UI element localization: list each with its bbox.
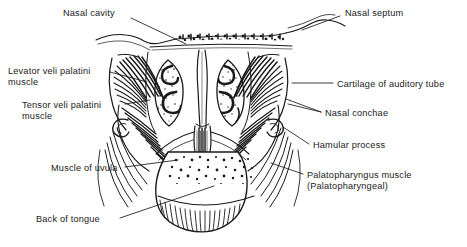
label-nasal-conchae: Nasal conchae [325, 108, 388, 119]
label-muscle-of-uvula: Muscle of uvula [51, 163, 118, 174]
leader-nasal-cavity [131, 18, 186, 44]
leader-nasal-conchae-2 [288, 104, 321, 112]
label-levator-veli-palatini-muscle: Levator veli palatini muscle [8, 66, 91, 89]
label-hamular-process: Hamular process [313, 140, 385, 151]
leader-nasal-conchae [286, 99, 321, 112]
anatomy-illustration [0, 0, 467, 247]
label-nasal-cavity: Nasal cavity [63, 8, 115, 19]
label-palatopharyngus-muscle: Palatopharyngus muscle (Palatopharyngeal… [307, 170, 412, 193]
leader-nasal-septum [302, 16, 340, 30]
label-back-of-tongue: Back of tongue [36, 214, 100, 225]
label-nasal-septum: Nasal septum [345, 8, 403, 19]
label-tensor-veli-palatini-muscle: Tensor veli palatini muscle [22, 100, 101, 123]
anatomy-figure: Nasal cavity Nasal septum Levator veli p… [0, 0, 467, 247]
label-cartilage-of-auditory-tube: Cartilage of auditory tube [337, 79, 444, 90]
